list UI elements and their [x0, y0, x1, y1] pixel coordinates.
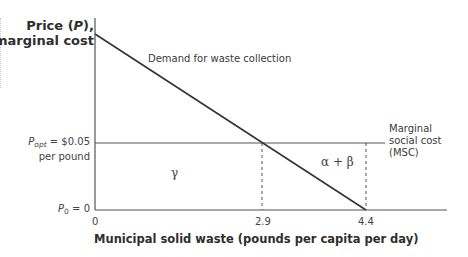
- x-tick-4-4: 4.4: [358, 216, 374, 227]
- p0-value: = 0: [69, 203, 90, 214]
- msc-label-line1: Marginal: [389, 123, 441, 135]
- msc-label-line3: (MSC): [389, 147, 441, 159]
- x-tick-2-9: 2.9: [255, 216, 271, 227]
- x-axis-title: Municipal solid waste (pounds per capita…: [94, 232, 419, 246]
- y-axis-title: Price (P), marginal cost: [0, 18, 94, 48]
- region-alpha-beta-label: α + β: [321, 155, 354, 169]
- popt-sub: opt: [34, 140, 46, 149]
- y-title-prefix: Price (: [26, 18, 73, 33]
- y-tick-p0: P0 = 0: [58, 203, 90, 218]
- y-title-line2: marginal cost: [0, 33, 94, 48]
- popt-value: = $0.05: [47, 136, 90, 147]
- x-tick-0: 0: [92, 216, 98, 227]
- demand-curve-label: Demand for waste collection: [148, 53, 291, 64]
- popt-unit: per pound: [28, 151, 90, 163]
- msc-label-line2: social cost: [389, 135, 441, 147]
- y-title-var: P: [74, 18, 84, 33]
- y-tick-popt: Popt = $0.05 per pound: [28, 136, 90, 163]
- msc-label: Marginal social cost (MSC): [389, 123, 441, 159]
- region-gamma-label: γ: [171, 166, 178, 180]
- y-title-suffix: ),: [83, 18, 94, 33]
